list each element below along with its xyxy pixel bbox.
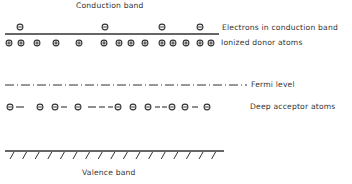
- electron-icon: [159, 24, 165, 30]
- deep-acceptor-icon: [37, 104, 43, 110]
- electron-icon: [197, 24, 203, 30]
- acceptors-label: Deep acceptor atoms: [250, 102, 336, 111]
- deep-acceptor-icon: [75, 104, 81, 110]
- acceptors-group: [7, 104, 210, 110]
- ionized-donor-icon: [208, 40, 214, 46]
- ionized-donor-icon: [101, 40, 107, 46]
- ionized-donor-icon: [197, 40, 203, 46]
- ionized-donor-icon: [53, 40, 59, 46]
- deep-acceptor-icon: [115, 104, 121, 110]
- ionized-donor-icon: [76, 40, 82, 46]
- valence-band-label: Valence band: [82, 168, 136, 177]
- deep-acceptor-icon: [204, 104, 210, 110]
- ionized-donor-icon: [159, 40, 165, 46]
- deep-acceptor-icon: [7, 104, 13, 110]
- donors-label: Ionized donor atoms: [221, 38, 303, 47]
- valence-band-hatching: [10, 152, 216, 159]
- ionized-donor-icon: [6, 40, 12, 46]
- electrons-label: Electrons in conduction band: [222, 23, 338, 32]
- electron-icon: [102, 24, 108, 30]
- ionized-donor-icon: [170, 40, 176, 46]
- ionized-donor-icon: [116, 40, 122, 46]
- deep-acceptor-icon: [52, 104, 58, 110]
- conduction-band-label: Conduction band: [76, 1, 144, 10]
- deep-acceptor-icon: [145, 104, 151, 110]
- fermi-level-label: Fermi level: [251, 80, 295, 89]
- deep-acceptor-icon: [169, 104, 175, 110]
- donors-group: [6, 40, 214, 46]
- deep-acceptor-icon: [130, 104, 136, 110]
- ionized-donor-icon: [18, 40, 24, 46]
- electron-icon: [17, 24, 23, 30]
- electrons-group: [17, 24, 203, 30]
- ionized-donor-icon: [142, 40, 148, 46]
- ionized-donor-icon: [34, 40, 40, 46]
- ionized-donor-icon: [183, 40, 189, 46]
- ionized-donor-icon: [128, 40, 134, 46]
- deep-acceptor-icon: [182, 104, 188, 110]
